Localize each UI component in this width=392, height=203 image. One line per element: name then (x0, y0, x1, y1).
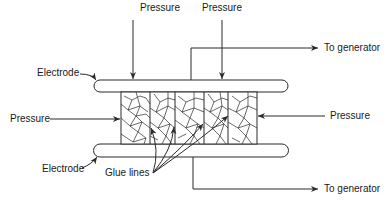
electrode-label-bottom: Electrode (42, 164, 84, 174)
pressure-label-left: Pressure (10, 114, 50, 124)
generator-lead-top (191, 48, 318, 80)
pressure-label-top-right: Pressure (202, 3, 242, 13)
generator-lead-bottom (193, 157, 318, 189)
generator-label-bottom: To generator (324, 184, 380, 194)
electrode-bottom-leader (82, 157, 97, 168)
generator-label-top: To generator (324, 43, 380, 53)
pressure-label-top-left: Pressure (140, 3, 180, 13)
glue-lines-label: Glue lines (105, 168, 149, 178)
electrode-top-leader (80, 74, 96, 80)
pressure-label-right: Pressure (330, 111, 370, 121)
electrode-label-top: Electrode (37, 68, 79, 78)
top-electrode (94, 80, 288, 92)
laminate-stack (121, 92, 257, 144)
laminate-bonding-diagram: Pressure Pressure Pressure Pressure Elec… (0, 0, 392, 203)
